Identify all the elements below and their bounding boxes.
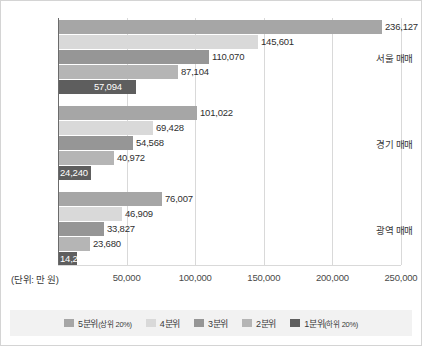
bar-group: 101,02269,42854,56840,97224,240 bbox=[58, 106, 401, 181]
bar-value-label: 14,200 bbox=[60, 252, 88, 266]
legend-swatch-icon bbox=[242, 319, 252, 327]
bar-row: 46,909 bbox=[58, 207, 401, 221]
bar-value-label: 110,070 bbox=[212, 50, 244, 64]
bar-row: 54,568 bbox=[58, 136, 401, 150]
bar-row: 236,127 bbox=[58, 20, 401, 34]
bar-row: 101,022 bbox=[58, 106, 401, 120]
legend-label-sub: (상위 20%) bbox=[98, 320, 132, 329]
bar-row: 57,094 bbox=[58, 80, 401, 94]
bar-value-label: 101,022 bbox=[200, 106, 233, 120]
plot-area: 236,127145,601110,07087,10457,094101,022… bbox=[58, 18, 401, 265]
x-axis-unit-label: (단위: 만 원) bbox=[11, 272, 59, 286]
x-tick-label: 250,000 bbox=[371, 272, 422, 283]
bar-row: 76,007 bbox=[58, 192, 401, 206]
bar-row: 40,972 bbox=[58, 151, 401, 165]
legend-label-sub: (하위 20%) bbox=[324, 320, 358, 329]
x-tick-label: 50,000 bbox=[97, 272, 157, 283]
bar[interactable] bbox=[58, 151, 114, 165]
bar-row: 14,200 bbox=[58, 252, 401, 266]
bar[interactable] bbox=[58, 237, 90, 251]
bar-value-label: 23,680 bbox=[93, 237, 121, 251]
category-label: 광역 매매 bbox=[361, 223, 413, 237]
bar-row: 23,680 bbox=[58, 237, 401, 251]
bar-row: 110,070 bbox=[58, 50, 401, 64]
bar[interactable] bbox=[58, 121, 153, 135]
bar-value-label: 57,094 bbox=[94, 80, 122, 94]
bar-value-label: 24,240 bbox=[60, 166, 88, 180]
bar[interactable] bbox=[58, 65, 178, 79]
bar-row: 87,104 bbox=[58, 65, 401, 79]
legend-item[interactable]: 3분위 bbox=[194, 317, 228, 330]
chart-legend: 5분위(상위 20%)4분위3분위2분위1분위(하위 20%) bbox=[10, 310, 412, 336]
bar[interactable] bbox=[58, 207, 122, 221]
bar[interactable] bbox=[58, 50, 209, 64]
bar-row: 24,240 bbox=[58, 166, 401, 180]
bar-value-label: 46,909 bbox=[125, 207, 153, 221]
bar-value-label: 54,568 bbox=[136, 136, 164, 150]
bar-row: 145,601 bbox=[58, 35, 401, 49]
bar-group: 76,00746,90933,82723,68014,200 bbox=[58, 192, 401, 267]
legend-item[interactable]: 1분위(하위 20%) bbox=[290, 317, 358, 330]
category-label: 경기 매매 bbox=[361, 137, 413, 151]
legend-label: 5분위(상위 20%) bbox=[78, 317, 132, 330]
x-tick-label: 150,000 bbox=[234, 272, 294, 283]
bar[interactable] bbox=[58, 35, 258, 49]
bar-value-label: 236,127 bbox=[385, 20, 418, 34]
bar-chart: 236,127145,601110,07087,10457,094101,022… bbox=[0, 0, 422, 346]
legend-swatch-icon bbox=[290, 319, 300, 327]
legend-swatch-icon bbox=[64, 319, 74, 327]
legend-label: 3분위 bbox=[208, 317, 228, 330]
legend-label: 1분위(하위 20%) bbox=[304, 317, 358, 330]
y-axis-line bbox=[58, 18, 59, 265]
bar-value-label: 76,007 bbox=[165, 192, 193, 206]
category-label: 서울 매매 bbox=[361, 51, 413, 65]
legend-swatch-icon bbox=[146, 319, 156, 327]
bar-row: 69,428 bbox=[58, 121, 401, 135]
x-tick-label: 100,000 bbox=[165, 272, 225, 283]
bar-row: 33,827 bbox=[58, 222, 401, 236]
x-axis-baseline bbox=[58, 265, 401, 266]
legend-label: 2분위 bbox=[256, 317, 276, 330]
bar[interactable] bbox=[58, 20, 382, 34]
bar-value-label: 69,428 bbox=[156, 121, 184, 135]
legend-item[interactable]: 2분위 bbox=[242, 317, 276, 330]
legend-item[interactable]: 5분위(상위 20%) bbox=[64, 317, 132, 330]
bar-value-label: 145,601 bbox=[261, 35, 294, 49]
legend-label: 4분위 bbox=[160, 317, 180, 330]
bar-value-label: 40,972 bbox=[117, 151, 145, 165]
bar-value-label: 33,827 bbox=[107, 222, 135, 236]
bar-value-label: 87,104 bbox=[181, 65, 209, 79]
bar-group: 236,127145,601110,07087,10457,094 bbox=[58, 20, 401, 95]
x-tick-label: 200,000 bbox=[302, 272, 362, 283]
legend-swatch-icon bbox=[194, 319, 204, 327]
bar[interactable] bbox=[58, 222, 104, 236]
bar[interactable] bbox=[58, 192, 162, 206]
bar[interactable] bbox=[58, 106, 197, 120]
bar[interactable] bbox=[58, 136, 133, 150]
legend-item[interactable]: 4분위 bbox=[146, 317, 180, 330]
